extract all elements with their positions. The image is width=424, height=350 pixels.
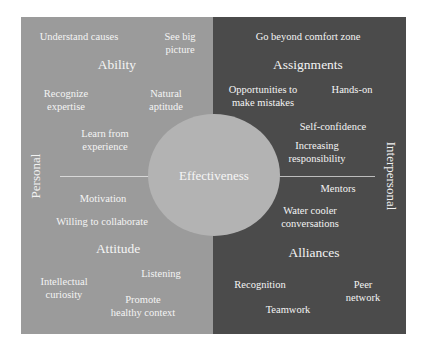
item-go-beyond-comfort-zone: Go beyond comfort zone — [256, 30, 361, 43]
item-teamwork: Teamwork — [266, 303, 311, 316]
heading-alliances: Alliances — [289, 245, 340, 261]
item-natural-aptitude: Natural aptitude — [149, 87, 183, 113]
item-see-big-picture: See big picture — [164, 30, 195, 56]
item-peer-network: Peer network — [346, 278, 380, 304]
item-listening: Listening — [141, 267, 181, 280]
item-understand-causes: Understand causes — [40, 30, 118, 43]
heading-ability: Ability — [98, 57, 136, 73]
item-promote-healthy-context: Promote healthy context — [111, 293, 175, 319]
item-opportunities-to-make-mistakes: Opportunities to make mistakes — [229, 83, 298, 109]
divider-right — [270, 176, 375, 177]
item-willing-to-collaborate: Willing to collaborate — [56, 215, 148, 228]
item-water-cooler-conversations: Water cooler conversations — [281, 204, 339, 230]
item-increasing-responsibility: Increasing responsibility — [288, 139, 345, 165]
item-motivation: Motivation — [80, 192, 127, 205]
item-intellectual-curiosity: Intellectual curiosity — [40, 275, 87, 301]
heading-assignments: Assignments — [273, 57, 343, 73]
item-mentors: Mentors — [321, 182, 356, 195]
item-recognize-expertise: Recognize expertise — [44, 87, 88, 113]
item-self-confidence: Self-confidence — [300, 120, 366, 133]
axis-label-personal: Personal — [28, 154, 44, 199]
center-label: Effectiveness — [179, 168, 249, 184]
divider-left — [60, 176, 160, 177]
item-recognition: Recognition — [234, 278, 285, 291]
axis-label-interpersonal: Interpersonal — [383, 142, 399, 211]
heading-attitude: Attitude — [96, 241, 140, 257]
item-hands-on: Hands-on — [332, 83, 373, 96]
item-learn-from-experience: Learn from experience — [81, 127, 129, 153]
